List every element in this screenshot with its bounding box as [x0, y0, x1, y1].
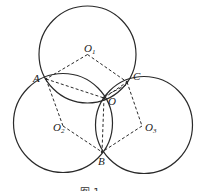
label-o: O [108, 95, 116, 107]
label-b: B [98, 155, 105, 167]
segment-a-o2 [46, 79, 63, 126]
segment-o1-c [88, 55, 128, 83]
label-o3: O3 [145, 121, 157, 135]
label-o2: O2 [53, 121, 65, 135]
segment-o3-b [102, 126, 142, 152]
three-circles-diagram: O1 A C O O2 O3 B 图 1 [0, 0, 201, 191]
point-o-dot [103, 97, 106, 100]
labels: O1 A C O O2 O3 B [32, 42, 157, 167]
point-c-dot [126, 81, 128, 83]
circle-o3 [96, 77, 193, 174]
circles [14, 6, 193, 174]
label-c: C [133, 70, 141, 82]
segment-a-o [46, 79, 104, 98]
label-a: A [32, 72, 40, 84]
figure-caption: 图 1 [80, 187, 100, 191]
segment-o1-a [46, 55, 88, 80]
segment-o-b [102, 98, 104, 152]
segment-c-o3 [127, 82, 142, 126]
point-a-dot [45, 78, 47, 80]
dashed-segments [46, 55, 142, 153]
label-o1: O1 [84, 42, 95, 56]
point-b-dot [101, 151, 103, 153]
